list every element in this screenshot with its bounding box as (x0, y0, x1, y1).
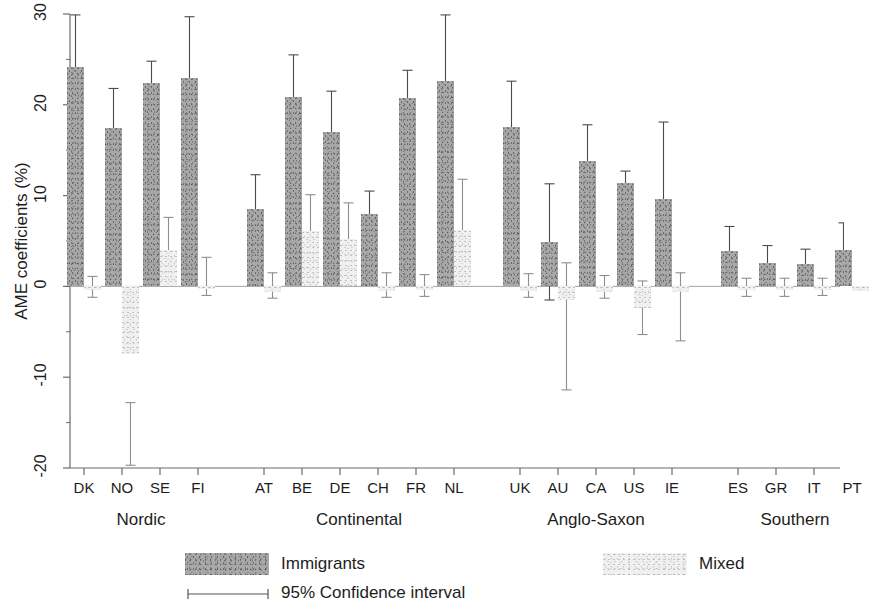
legend-label-immigrants: Immigrants (281, 554, 365, 574)
y-axis-title: AME coefficients (%) (12, 162, 32, 319)
x-tick-label: NL (432, 479, 476, 496)
bar-immigrants[interactable] (503, 127, 520, 287)
legend-label-confidence-interval: 95% Confidence interval (281, 583, 465, 603)
x-tick-label: IE (650, 479, 694, 496)
bar-immigrants[interactable] (323, 132, 340, 286)
y-tick-label: 20 (32, 86, 50, 120)
bar-mixed[interactable] (520, 286, 537, 291)
bar-immigrants[interactable] (247, 209, 264, 286)
bar-mixed[interactable] (84, 286, 101, 290)
bar-immigrants[interactable] (399, 98, 416, 287)
bar-mixed[interactable] (852, 286, 869, 291)
y-tick-label: -20 (32, 449, 50, 483)
group-label: Continental (279, 510, 439, 530)
bar-mixed[interactable] (340, 239, 357, 286)
bar-immigrants[interactable] (181, 78, 198, 287)
bar-immigrants[interactable] (361, 214, 378, 287)
bar-mixed[interactable] (378, 286, 395, 291)
bar-mixed[interactable] (264, 286, 281, 291)
legend-swatch-mixed[interactable] (603, 553, 687, 575)
group-label: Nordic (61, 510, 221, 530)
bar-mixed[interactable] (302, 231, 319, 286)
bar-mixed[interactable] (634, 286, 651, 308)
legend-label-mixed: Mixed (699, 554, 744, 574)
bar-immigrants[interactable] (67, 67, 84, 287)
bar-immigrants[interactable] (797, 264, 814, 287)
bar-immigrants[interactable] (835, 250, 852, 286)
bar-mixed[interactable] (454, 230, 471, 286)
bar-immigrants[interactable] (143, 83, 160, 286)
bar-immigrants[interactable] (655, 199, 672, 286)
x-tick-label: PT (830, 479, 873, 496)
x-tick-label: FI (176, 479, 220, 496)
legend-swatch-immigrants[interactable] (185, 553, 269, 575)
bar-mixed[interactable] (672, 286, 689, 291)
group-label: Anglo-Saxon (516, 510, 676, 530)
y-tick-label: 0 (32, 267, 50, 301)
bar-mixed[interactable] (160, 250, 177, 286)
bar-mixed[interactable] (738, 286, 755, 290)
bar-immigrants[interactable] (759, 263, 776, 287)
bar-mixed[interactable] (596, 286, 613, 291)
bar-mixed[interactable] (122, 286, 139, 354)
bar-mixed[interactable] (198, 286, 215, 289)
y-tick-label: 30 (32, 0, 50, 29)
group-label: Southern (715, 510, 873, 530)
bar-mixed[interactable] (814, 286, 831, 290)
bar-immigrants[interactable] (437, 81, 454, 286)
bar-mixed[interactable] (776, 286, 793, 290)
y-tick-label: 10 (32, 177, 50, 211)
bar-mixed[interactable] (416, 286, 433, 290)
bar-immigrants[interactable] (285, 97, 302, 287)
y-tick-label: -10 (32, 358, 50, 392)
bar-immigrants[interactable] (617, 183, 634, 287)
bar-immigrants[interactable] (579, 161, 596, 286)
bar-immigrants[interactable] (105, 128, 122, 287)
bar-immigrants[interactable] (721, 251, 738, 286)
bar-mixed[interactable] (558, 286, 575, 300)
bar-immigrants[interactable] (541, 242, 558, 286)
